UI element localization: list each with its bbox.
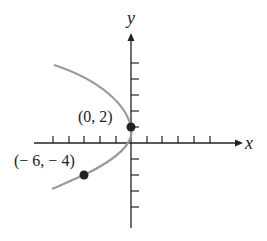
x-arrow-icon bbox=[235, 140, 243, 147]
parabola-curve bbox=[52, 65, 132, 189]
point-a-label: (0, 2) bbox=[78, 108, 113, 126]
point-b-label: (− 6, − 4) bbox=[14, 152, 75, 170]
graph: y x (0, 2) (− 6, − 4) bbox=[0, 0, 267, 241]
y-axis-label: y bbox=[125, 8, 135, 28]
x-axis bbox=[34, 140, 243, 147]
point-neg6-neg4 bbox=[80, 171, 89, 180]
y-arrow-icon bbox=[128, 33, 135, 41]
x-axis-label: x bbox=[244, 133, 253, 153]
point-0-2 bbox=[127, 123, 136, 132]
